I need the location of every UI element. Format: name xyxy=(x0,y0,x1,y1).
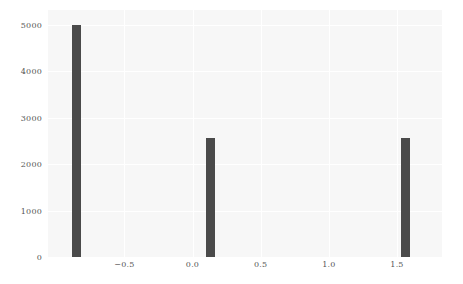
x-axis-tick-label: 0.5 xyxy=(254,260,267,269)
x-axis-tick-label: −0.5 xyxy=(114,260,134,269)
x-axis-tick-label: 0.0 xyxy=(186,260,199,269)
x-axis-tick-labels: −0.50.00.51.01.5 xyxy=(0,0,463,284)
x-axis-tick-label: 1.0 xyxy=(322,260,335,269)
x-axis-tick-label: 1.5 xyxy=(390,260,403,269)
chart-figure: 010002000300040005000 −0.50.00.51.01.5 xyxy=(0,0,463,284)
